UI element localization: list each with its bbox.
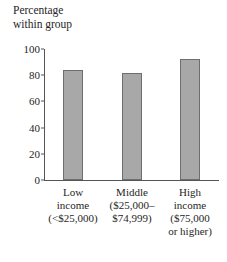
y-axis-tick-mark [41, 75, 44, 76]
bar [63, 70, 83, 180]
y-axis-tick-label: 20 [29, 148, 40, 159]
y-axis-tick-label: 60 [29, 96, 40, 107]
x-axis-line [44, 180, 219, 181]
y-axis-line [44, 49, 45, 181]
x-axis-category-label: High income ($75,000 or higher) [153, 186, 227, 238]
y-axis-tick-mark [41, 127, 44, 128]
y-axis-tick-mark [41, 101, 44, 102]
bar [122, 73, 142, 180]
y-axis-tick-mark [41, 49, 44, 50]
y-axis-tick-label: 100 [24, 44, 41, 55]
bar [180, 59, 200, 180]
plot-area: 020406080100 [44, 49, 219, 181]
y-axis-tick-label: 0 [35, 175, 41, 186]
y-axis-tick-label: 80 [29, 70, 40, 81]
bar-chart-figure: Percentage within group 020406080100 Low… [0, 0, 227, 262]
y-axis-tick-mark [41, 153, 44, 154]
y-axis-tick-label: 40 [29, 122, 40, 133]
y-axis-tick-mark [41, 180, 44, 181]
chart-title: Percentage within group [13, 4, 133, 31]
